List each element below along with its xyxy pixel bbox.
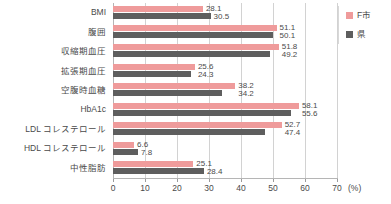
bar-series-ken	[113, 71, 191, 77]
legend-label: F市	[357, 11, 371, 20]
legend-label: 県	[357, 30, 366, 39]
legend-item[interactable]: F市	[346, 9, 391, 22]
bar-group: 25.624.3	[113, 64, 337, 83]
bar-series-ken	[113, 90, 222, 96]
x-tick-mark	[273, 179, 274, 182]
x-axis-ticks: (%) 010203040506070	[0, 179, 391, 204]
x-tick-mark	[113, 179, 114, 182]
bar-series-ken	[113, 13, 211, 19]
bar-series-ken	[113, 51, 270, 57]
bar-group: 6.67.8	[113, 142, 337, 161]
value-label-ken: 49.2	[282, 51, 298, 59]
x-axis-unit-label: (%)	[348, 184, 361, 193]
x-tick-label: 40	[236, 184, 245, 193]
legend-item[interactable]: 県	[346, 28, 391, 41]
bar-series-ken	[113, 32, 273, 38]
x-tick-mark	[145, 179, 146, 182]
bar-series-f-shi	[113, 83, 235, 89]
category-label: HbA1c	[0, 105, 106, 114]
bar-series-ken	[113, 168, 204, 174]
bar-series-ken	[113, 110, 291, 116]
legend-swatch-icon	[346, 12, 353, 19]
x-tick-label: 20	[172, 184, 181, 193]
category-label: 空腹時血糖	[0, 86, 106, 95]
chart-legend: F市県	[346, 9, 391, 47]
bar-group: 28.130.5	[113, 6, 337, 25]
x-tick-mark	[209, 179, 210, 182]
bar-group: 51.849.2	[113, 44, 337, 63]
bar-series-ken	[113, 129, 265, 135]
value-label-ken: 55.6	[302, 110, 318, 118]
x-tick-label: 50	[268, 184, 277, 193]
bar-series-f-shi	[113, 64, 195, 70]
bar-group: 51.150.1	[113, 25, 337, 44]
bar-series-f-shi	[113, 161, 193, 167]
horizontal-bar-chart: BMI腹囲収縮期血圧拡張期血圧空腹時血糖HbA1cLDL コレステロールHDL …	[0, 0, 391, 204]
category-label: 拡張期血圧	[0, 67, 106, 76]
category-label: LDL コレステロール	[0, 125, 106, 134]
value-label-ken: 24.3	[198, 71, 214, 79]
value-label-ken: 47.4	[285, 129, 301, 137]
bar-series-f-shi	[113, 44, 279, 50]
bar-group: 52.747.4	[113, 122, 337, 141]
value-label-ken: 50.1	[280, 32, 296, 40]
bar-series-f-shi	[113, 122, 282, 128]
bar-group: 38.234.2	[113, 83, 337, 102]
plot-area: 28.130.551.150.151.849.225.624.338.234.2…	[113, 3, 337, 178]
bar-series-f-shi	[113, 6, 203, 12]
bar-series-f-shi	[113, 25, 277, 31]
category-label: 腹囲	[0, 28, 106, 37]
x-tick-mark	[177, 179, 178, 182]
legend-swatch-icon	[346, 31, 353, 38]
x-tick-label: 10	[140, 184, 149, 193]
value-label-ken: 30.5	[214, 13, 230, 21]
category-label: HDL コレステロール	[0, 144, 106, 153]
category-label: 収縮期血圧	[0, 47, 106, 56]
bar-series-f-shi	[113, 103, 299, 109]
category-label: BMI	[0, 8, 106, 17]
x-tick-label: 0	[111, 184, 116, 193]
x-tick-label: 30	[204, 184, 213, 193]
category-label: 中性脂肪	[0, 164, 106, 173]
x-tick-mark	[337, 179, 338, 182]
x-tick-label: 70	[332, 184, 341, 193]
value-label-ken: 34.2	[238, 90, 254, 98]
value-label-ken: 28.4	[207, 168, 223, 176]
bar-series-f-shi	[113, 142, 134, 148]
bar-series-ken	[113, 149, 138, 155]
x-tick-label: 60	[300, 184, 309, 193]
category-axis-labels: BMI腹囲収縮期血圧拡張期血圧空腹時血糖HbA1cLDL コレステロールHDL …	[0, 0, 110, 178]
value-label-ken: 7.8	[141, 149, 152, 157]
x-tick-mark	[241, 179, 242, 182]
legend-divider	[338, 6, 339, 44]
x-tick-mark	[305, 179, 306, 182]
bar-group: 58.155.6	[113, 103, 337, 122]
